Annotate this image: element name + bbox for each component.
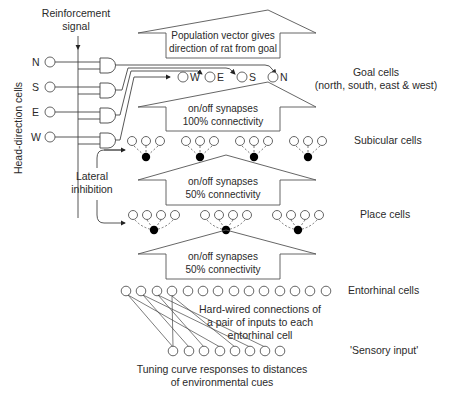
goal-sub-text-1: on/off synapses — [188, 103, 258, 114]
hardwired-text-1: Hard-wired connections of — [199, 303, 321, 315]
top-arrow-text-1: Population vector gives — [171, 30, 274, 41]
svg-text:E: E — [32, 106, 39, 118]
hippocampal-navigation-diagram: Reinforcement signal Head-direction cell… — [0, 0, 451, 397]
tuning-text-1: Tuning curve responses to distances — [137, 363, 308, 375]
place-ent-text-1: on/off synapses — [188, 251, 258, 262]
reinforcement-label: Reinforcement — [42, 7, 110, 19]
svg-text:W: W — [31, 131, 41, 143]
subicular-label: Subicular cells — [354, 134, 422, 146]
place-cells — [129, 211, 324, 235]
head-direction-cell-W: W — [31, 131, 116, 148]
and-gate-icon — [100, 133, 116, 148]
and-gate-icon — [100, 108, 116, 123]
svg-text:S: S — [249, 71, 256, 83]
subicular-cells — [128, 137, 327, 162]
goal-cells-label: Goal cells — [353, 66, 399, 78]
entorhinal-label: Entorhinal cells — [348, 284, 419, 296]
place-ent-text-2: 50% connectivity — [185, 264, 260, 275]
head-direction-cell-E: E — [32, 106, 116, 123]
goal-cells-row: W E S N — [178, 71, 288, 83]
and-gate-icon — [100, 83, 116, 98]
head-direction-label: Head-direction cells — [12, 82, 24, 174]
place-cells-label: Place cells — [360, 208, 410, 220]
svg-text:W: W — [190, 71, 200, 83]
svg-text:E: E — [217, 71, 224, 83]
tuning-text-2: of environmental cues — [171, 376, 274, 388]
top-arrow-text-2: direction of rat from goal — [169, 43, 277, 54]
goal-cells-sublabel: (north, south, east & west) — [315, 79, 438, 91]
hardwired-text-2: a pair of inputs to each — [207, 316, 313, 328]
lateral-label-2: inhibition — [71, 183, 113, 195]
goal-sub-text-2: 100% connectivity — [183, 116, 264, 127]
head-direction-cell-S: S — [32, 81, 116, 98]
and-gate-icon — [100, 58, 116, 73]
svg-text:N: N — [32, 56, 40, 68]
sensory-input-cells — [168, 346, 285, 356]
sub-place-text-2: 50% connectivity — [185, 189, 260, 200]
sub-place-text-1: on/off synapses — [188, 176, 258, 187]
svg-text:S: S — [32, 81, 39, 93]
reinforcement-label-2: signal — [62, 20, 89, 32]
svg-text:N: N — [280, 71, 288, 83]
lateral-bottom-line — [97, 200, 125, 223]
head-direction-cell-N: N — [32, 56, 116, 73]
entorhinal-cells — [121, 286, 331, 296]
sensory-input-label: 'Sensory input' — [350, 344, 418, 356]
hardwired-text-3: entorhinal cell — [228, 329, 293, 341]
lateral-top-line — [97, 150, 124, 168]
lateral-label: Lateral — [76, 170, 108, 182]
